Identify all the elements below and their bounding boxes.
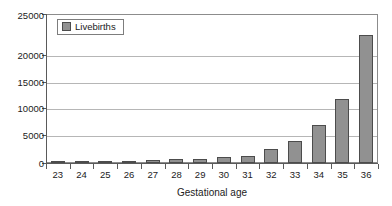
- x-tick-mark-33: [283, 164, 284, 169]
- gridline-5000: [47, 136, 377, 137]
- x-tick-label-26: 26: [124, 170, 135, 180]
- x-tick-mark-25: [93, 164, 94, 169]
- bar-30[interactable]: [217, 157, 231, 163]
- bar-27[interactable]: [146, 160, 160, 163]
- x-tick-label-25: 25: [100, 170, 111, 180]
- bar-25[interactable]: [98, 161, 112, 163]
- x-tick-mark-26: [117, 164, 118, 169]
- x-tick-mark-32: [259, 164, 260, 169]
- x-tick-label-29: 29: [195, 170, 206, 180]
- bar-23[interactable]: [51, 161, 65, 163]
- x-tick-label-23: 23: [53, 170, 64, 180]
- x-axis-title: Gestational age: [0, 188, 392, 198]
- legend-item-label: Livebirths: [75, 22, 116, 32]
- x-tick-mark-35: [331, 164, 332, 169]
- livebirths-swatch-icon: [62, 22, 71, 31]
- bar-36[interactable]: [359, 35, 373, 163]
- bar-24[interactable]: [75, 161, 89, 163]
- x-tick-label-35: 35: [337, 170, 348, 180]
- gridline-15000: [47, 83, 377, 84]
- chart-legend[interactable]: Livebirths: [57, 19, 124, 35]
- bar-28[interactable]: [169, 159, 183, 163]
- x-tick-label-32: 32: [266, 170, 277, 180]
- bar-26[interactable]: [122, 161, 136, 163]
- x-tick-mark-23: [46, 164, 47, 169]
- x-tick-mark-30: [212, 164, 213, 169]
- plot-area: [46, 14, 378, 163]
- gridline-10000: [47, 109, 377, 110]
- x-tick-mark-31: [236, 164, 237, 169]
- x-tick-label-24: 24: [76, 170, 87, 180]
- x-tick-mark-27: [141, 164, 142, 169]
- bar-33[interactable]: [288, 141, 302, 163]
- x-tick-label-30: 30: [219, 170, 230, 180]
- x-tick-label-28: 28: [171, 170, 182, 180]
- bar-34[interactable]: [312, 125, 326, 163]
- y-axis-line: [46, 14, 47, 164]
- x-tick-label-34: 34: [313, 170, 324, 180]
- gridline-20000: [47, 56, 377, 57]
- x-tick-label-27: 27: [147, 170, 158, 180]
- y-tick-label-15000: 15000: [0, 78, 44, 88]
- y-tick-label-25000: 25000: [0, 11, 44, 21]
- x-tick-mark-34: [307, 164, 308, 169]
- x-tick-mark-29: [188, 164, 189, 169]
- y-tick-label-10000: 10000: [0, 104, 44, 114]
- y-tick-label-20000: 20000: [0, 51, 44, 61]
- y-tick-label-5000: 5000: [0, 131, 44, 141]
- x-tick-label-36: 36: [361, 170, 372, 180]
- x-tick-mark-36: [354, 164, 355, 169]
- bar-35[interactable]: [335, 99, 349, 163]
- x-tick-label-31: 31: [242, 170, 253, 180]
- y-tick-label-0: 0: [0, 159, 44, 169]
- x-tick-mark-end: [378, 164, 379, 169]
- bar-32[interactable]: [264, 149, 278, 163]
- bar-29[interactable]: [193, 159, 207, 163]
- livebirths-bar-chart: 0 5000 10000 15000 20000 25000 232425262…: [0, 0, 392, 206]
- x-tick-label-33: 33: [290, 170, 301, 180]
- x-tick-mark-28: [165, 164, 166, 169]
- x-tick-mark-24: [70, 164, 71, 169]
- bar-31[interactable]: [241, 156, 255, 163]
